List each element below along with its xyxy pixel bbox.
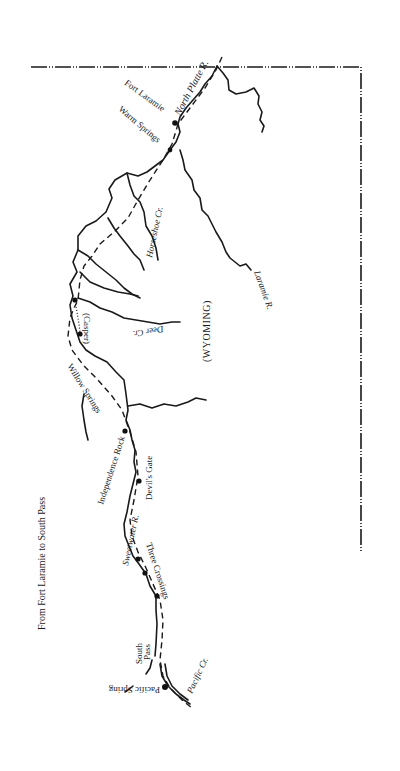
three-crossings-marker-2 xyxy=(142,570,147,575)
warm-springs-label: Warm Springs xyxy=(117,104,163,145)
deer-creek xyxy=(78,298,180,324)
map-title: From Fort Laramie to South Pass xyxy=(36,497,47,630)
three-crossings-label: Three Crossings xyxy=(144,542,172,601)
south-pass-label-line2: Pass xyxy=(142,643,152,660)
three-crossings-marker-3 xyxy=(154,593,159,598)
south-pass-creek xyxy=(146,660,152,674)
deer-creek-crossing-marker xyxy=(72,297,77,302)
independence-rock-marker xyxy=(122,428,127,433)
region-label: (WYOMING) xyxy=(201,300,213,362)
willow-springs-label: Willow Springs xyxy=(65,362,104,416)
three-crossings-marker-1 xyxy=(135,556,140,561)
tributary-creek xyxy=(78,250,140,298)
pacific-spring-marker xyxy=(162,684,168,690)
north-platte-river xyxy=(70,66,217,656)
pacific-spring-label: Pacific Spring xyxy=(108,685,160,695)
fort-laramie-marker xyxy=(172,120,178,126)
tributary-creek xyxy=(108,218,144,270)
devils-gate-label: Devil's Gate xyxy=(144,456,154,500)
sweetwater-tributary xyxy=(128,398,206,408)
casper-label: (Casper) xyxy=(82,313,92,344)
laramie-river-label: Laramie R. xyxy=(252,268,276,310)
laramie-river xyxy=(180,150,251,270)
deer-creek-label: Deer Cr. xyxy=(132,324,165,339)
warm-springs-marker xyxy=(168,148,173,153)
independence-rock-label: Independence Rock xyxy=(95,434,127,505)
casper-marker xyxy=(77,331,82,336)
state-border xyxy=(31,67,361,551)
pacific-creek-label: Pacific Cr. xyxy=(184,656,210,696)
emigrant-trail xyxy=(68,57,222,708)
horseshoe-creek-label: Horseshoe Cr. xyxy=(144,206,165,259)
devils-gate-marker xyxy=(136,478,141,483)
trail-map: From Fort Laramie to South Pass (WYOMING… xyxy=(0,0,400,771)
laramie-headwater-creek xyxy=(217,66,264,132)
